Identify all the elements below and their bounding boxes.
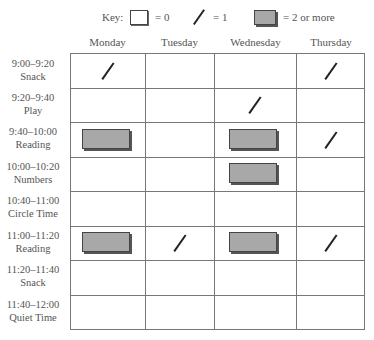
activity-label: Snack <box>0 70 66 83</box>
grid-row <box>71 54 365 89</box>
grid-row <box>71 295 365 330</box>
grid-cell <box>214 226 297 261</box>
row-label: 10:40–11:00Circle Time <box>0 194 66 220</box>
grid-cell <box>297 123 365 158</box>
day-header-thursday: Thursday <box>297 36 365 48</box>
grid-cell <box>71 295 146 330</box>
legend-label-one: = 1 <box>213 11 227 23</box>
row-label: 9:40–10:00Reading <box>0 125 66 151</box>
observation-grid <box>70 53 365 330</box>
row-label: 11:20–11:40Snack <box>0 263 66 289</box>
grid-cell <box>71 88 146 123</box>
grid-cell <box>297 295 365 330</box>
empty-box-icon <box>130 10 148 25</box>
grid-row <box>71 226 365 261</box>
slash-icon <box>101 62 114 79</box>
grid-cell <box>145 261 214 296</box>
time-label: 11:20–11:40 <box>0 263 66 276</box>
row-label: 11:40–12:00Quiet Time <box>0 298 66 324</box>
row-label: 9:20–9:40Play <box>0 91 66 117</box>
grid-cell <box>214 295 297 330</box>
filled-box-icon <box>229 129 277 149</box>
filled-box-icon <box>82 232 130 252</box>
legend-label-two-or-more: = 2 or more <box>283 11 335 23</box>
grid-cell <box>145 123 214 158</box>
slash-icon <box>324 131 337 148</box>
time-label: 9:20–9:40 <box>0 91 66 104</box>
activity-label: Reading <box>0 138 66 151</box>
grid-cell <box>71 226 146 261</box>
grid-row <box>71 123 365 158</box>
grid-cell <box>214 192 297 227</box>
grid-cell <box>145 226 214 261</box>
grid-cell <box>297 88 365 123</box>
activity-label: Quiet Time <box>0 311 66 324</box>
grid-cell <box>214 54 297 89</box>
grid-cell <box>71 261 146 296</box>
row-label: 11:00–11:20Reading <box>0 229 66 255</box>
grid-cell <box>71 123 146 158</box>
slash-icon <box>193 9 205 25</box>
grid-cell <box>297 226 365 261</box>
activity-label: Reading <box>0 242 66 255</box>
row-label: 9:00–9:20Snack <box>0 57 66 83</box>
day-header-tuesday: Tuesday <box>145 36 214 48</box>
legend: Key: = 0 = 1 = 2 or more <box>0 8 374 28</box>
time-label: 9:40–10:00 <box>0 125 66 138</box>
time-label: 10:40–11:00 <box>0 194 66 207</box>
grid-cell <box>214 88 297 123</box>
grid-cell <box>145 157 214 192</box>
grid-row <box>71 157 365 192</box>
activity-label: Snack <box>0 276 66 289</box>
grid-cell <box>145 54 214 89</box>
activity-label: Play <box>0 104 66 117</box>
grid-cell <box>71 192 146 227</box>
row-label: 10:00–10:20Numbers <box>0 160 66 186</box>
filled-box-icon <box>254 10 276 25</box>
filled-box-icon <box>229 163 277 183</box>
grid-cell <box>71 157 146 192</box>
grid-cell <box>145 295 214 330</box>
grid-cell <box>145 88 214 123</box>
grid-cell <box>214 157 297 192</box>
slash-icon <box>173 235 186 252</box>
legend-title: Key: <box>102 11 123 23</box>
grid-cell <box>297 54 365 89</box>
day-header-monday: Monday <box>70 36 145 48</box>
slash-icon <box>249 97 262 114</box>
grid-cell <box>145 192 214 227</box>
legend-label-zero: = 0 <box>155 11 169 23</box>
activity-label: Numbers <box>0 173 66 186</box>
grid-cell <box>214 261 297 296</box>
grid-cell <box>297 261 365 296</box>
grid-row <box>71 88 365 123</box>
grid-row <box>71 192 365 227</box>
slash-icon <box>324 62 337 79</box>
filled-box-icon <box>229 232 277 252</box>
grid-cell <box>71 54 146 89</box>
grid-cell <box>297 192 365 227</box>
day-header-wednesday: Wednesday <box>214 36 297 48</box>
filled-box-icon <box>82 129 130 149</box>
time-label: 9:00–9:20 <box>0 57 66 70</box>
slash-icon <box>324 235 337 252</box>
grid-cell <box>214 123 297 158</box>
grid-row <box>71 261 365 296</box>
time-label: 10:00–10:20 <box>0 160 66 173</box>
time-label: 11:00–11:20 <box>0 229 66 242</box>
activity-label: Circle Time <box>0 207 66 220</box>
time-label: 11:40–12:00 <box>0 298 66 311</box>
grid-cell <box>297 157 365 192</box>
